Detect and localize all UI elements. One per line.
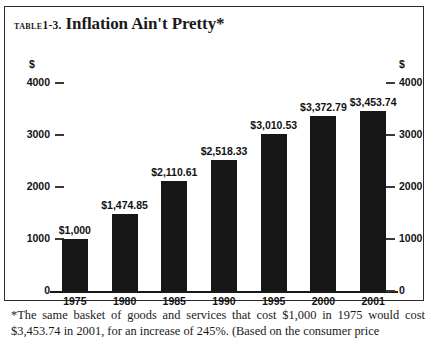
title-table-number: 1-3. [43,19,62,31]
table-figure-page: TABLE1-3.Inflation Ain't Pretty* $ $ 400… [0,0,437,345]
title-table-label: TABLE [14,19,43,31]
page-title: TABLE1-3.Inflation Ain't Pretty* [14,14,224,34]
figure-footnote: *The same basket of goods and services t… [11,308,425,339]
title-heading: Inflation Ain't Pretty* [66,14,225,33]
figure-frame [4,6,424,301]
